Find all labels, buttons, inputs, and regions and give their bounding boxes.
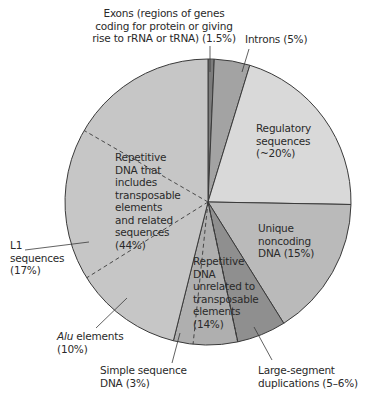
- label-alu-elements: Alu elements (10%): [57, 330, 123, 355]
- label-l1-sequences: L1 sequences (17%): [10, 239, 64, 277]
- label-regulatory: Regulatory sequences (~20%): [256, 122, 311, 160]
- label-repetitive-transposable: Repetitive DNA that includes transposabl…: [115, 151, 181, 251]
- alu-italic: Alu: [57, 330, 73, 342]
- label-simple-sequence: Simple sequence DNA (3%): [100, 364, 187, 389]
- label-exons: Exons (regions of genes coding for prote…: [88, 7, 240, 45]
- label-repetitive-unrelated: Repetitive DNA unrelated to transposable…: [193, 255, 259, 330]
- label-large-segment: Large-segment duplications (5–6%): [258, 364, 358, 389]
- label-unique-noncoding: Unique noncoding DNA (15%): [258, 222, 314, 260]
- label-introns: Introns (5%): [245, 33, 307, 46]
- pie-chart: [0, 0, 366, 395]
